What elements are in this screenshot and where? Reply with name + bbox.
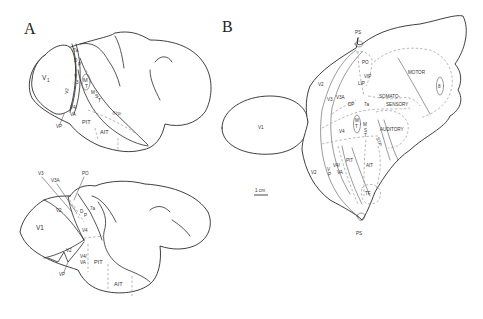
label-mst-t: T [364, 133, 367, 138]
label-v2-lower: V2 [311, 170, 317, 175]
label-v3-sub: 3 [76, 80, 79, 85]
label-v3a: V3A [336, 95, 346, 100]
label-va: VA [70, 112, 77, 117]
label-sensory: SENSORY [386, 102, 408, 107]
label-v3: V3 [327, 97, 333, 102]
label-pit: PIT [346, 158, 353, 163]
label-ait: AIT [114, 281, 123, 287]
label-v2-upper: V2 [318, 82, 324, 87]
label-va: VA [337, 170, 344, 175]
label-v4-va: V4/ [333, 163, 341, 168]
label-somato: SOMATO- [379, 94, 400, 99]
label-mt-m: M [355, 118, 359, 123]
label-auditory: AUDITORY [380, 127, 404, 132]
label-v4-va: V4/ [80, 254, 88, 259]
label-v3: V3 [38, 171, 44, 176]
label-po: PO [82, 171, 89, 176]
label-dp: DP [348, 102, 354, 107]
figure-canvas: A V 1 7a D P V 3 V2 M T M S T S [0, 0, 483, 319]
label-7a: 7a [73, 48, 79, 53]
label-mt-t: T [355, 124, 358, 129]
label-dp-p: P [84, 213, 87, 218]
label-7a: 7a [364, 102, 370, 107]
label-vp-p: P [328, 172, 331, 177]
lateral-hemisphere: V 1 7a D P V 3 V2 M T M S T STP V4/ VA V… [29, 32, 211, 152]
panel-a-label: A [24, 20, 36, 37]
label-area-8: 8 [438, 84, 441, 89]
label-v4: V4 [339, 129, 345, 134]
posterior-brain-outline [20, 181, 210, 293]
label-tf: TF [365, 191, 371, 196]
label-mst-m: M [363, 122, 367, 127]
label-v2-top: V2 [56, 208, 62, 213]
label-pit: PIT [82, 119, 91, 125]
label-po: PO [362, 60, 369, 65]
label-vp: VP [56, 124, 62, 129]
label-vip: VIP [364, 74, 371, 79]
label-v4: V4 [82, 228, 88, 233]
panel-b-label: B [222, 18, 233, 35]
label-v1: V1 [258, 125, 264, 130]
label-vp: VP [59, 272, 65, 277]
label-v1-sub: 1 [47, 78, 50, 83]
label-lip: LIP [358, 81, 365, 86]
label-mst-t: T [98, 98, 101, 103]
label-ps-bottom: PS [356, 231, 362, 236]
label-7a: 7a [90, 206, 96, 211]
label-ait: AIT [100, 129, 109, 135]
label-v3a: V3A [51, 178, 61, 183]
label-mt-m: M [83, 77, 88, 83]
label-motor: MOTOR [408, 70, 426, 75]
extrastriate-flatmap-outline [302, 16, 466, 220]
label-mt-t: T [85, 84, 88, 89]
scale-bar-label: 1 cm [255, 188, 265, 193]
v1-flatmap [222, 96, 308, 154]
flattened-cortex-map: PS PS PO VIP LIP MOTOR 8 V2 V3 V3A DP 7a… [222, 16, 466, 236]
label-ait: AIT [366, 163, 373, 168]
label-ps-top: PS [355, 30, 361, 35]
posterior-hemisphere: V3 V3A PO V1 V2 D P 7a V4 V2 V4/ VA VP P… [20, 171, 210, 296]
label-dp-p: P [78, 62, 81, 67]
label-v4-va: V4/ [70, 105, 78, 110]
label-v1: V1 [36, 224, 44, 231]
label-pit: PIT [94, 259, 103, 265]
label-v2-bottom: V2 [66, 248, 72, 253]
label-va: VA [80, 260, 87, 265]
